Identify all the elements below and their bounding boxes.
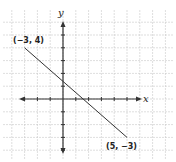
- x-axis-label: x: [143, 93, 149, 104]
- point-label-start: (−3, 4): [13, 36, 44, 45]
- point-label-end: (5, −3): [106, 142, 137, 151]
- grid-lines: [3, 10, 174, 160]
- x-axis-right-arrow-icon: [136, 97, 142, 102]
- y-axis-up-arrow-icon: [61, 21, 66, 27]
- axes: x y: [19, 7, 149, 154]
- coordinate-plane: x y (−3, 4) (5, −3): [0, 0, 176, 162]
- y-axis-down-arrow-icon: [61, 148, 66, 154]
- y-axis-label: y: [57, 7, 64, 18]
